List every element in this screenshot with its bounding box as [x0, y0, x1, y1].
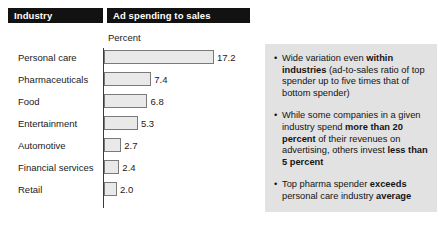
callout-text: Top pharma spender [282, 179, 370, 189]
chart-page: Industry Ad spending to sales Percent Pe… [0, 0, 437, 232]
column-header-industry: Industry [8, 8, 103, 23]
bar-category-label: Pharmaceuticals [18, 74, 88, 85]
bar-row: Pharmaceuticals7.4 [0, 70, 258, 92]
bar-category-label: Food [18, 96, 40, 107]
bar-row: Financial services2.4 [0, 158, 258, 180]
bar-value-label: 6.8 [150, 96, 163, 107]
column-header-ad-spending-label: Ad spending to sales [113, 10, 211, 21]
column-header-industry-label: Industry [14, 10, 52, 21]
axis-caption-percent: Percent [108, 32, 141, 43]
bar [104, 94, 147, 108]
bar-value-label: 2.4 [122, 162, 135, 173]
callout-bullet: While some companies in a given industry… [274, 110, 428, 168]
bar-category-label: Retail [18, 184, 42, 195]
callout-panel: Wide variation even within industries (a… [265, 44, 437, 212]
bar-value-label: 2.7 [124, 140, 137, 151]
bar-category-label: Entertainment [18, 118, 77, 129]
bar-row: Retail2.0 [0, 180, 258, 202]
bar-value-label: 7.4 [154, 74, 167, 85]
callout-text: Wide variation even [282, 53, 366, 63]
bar-value-label: 2.0 [120, 184, 133, 195]
bar-value-label: 17.2 [217, 52, 236, 63]
callout-bullet: Top pharma spender exceeds personal care… [274, 179, 428, 202]
bar-row: Food6.8 [0, 92, 258, 114]
callout-text-emphasis: average [376, 191, 411, 201]
bar-row: Automotive2.7 [0, 136, 258, 158]
bar [104, 160, 119, 174]
bar-category-label: Automotive [18, 140, 66, 151]
callout-text-emphasis: exceeds [370, 179, 407, 189]
bar [104, 116, 138, 130]
bar [104, 138, 121, 152]
bar-category-label: Personal care [18, 52, 77, 63]
bar [104, 50, 214, 64]
callout-bullet: Wide variation even within industries (a… [274, 53, 428, 99]
bar [104, 182, 117, 196]
bar [104, 72, 151, 86]
callout-text: personal care industry [282, 191, 376, 201]
column-header-ad-spending: Ad spending to sales [107, 8, 250, 23]
bar-category-label: Financial services [18, 162, 94, 173]
bar-row: Personal care17.2 [0, 48, 258, 70]
bar-chart: Personal care17.2Pharmaceuticals7.4Food6… [0, 48, 258, 218]
bar-value-label: 5.3 [141, 118, 154, 129]
bar-row: Entertainment5.3 [0, 114, 258, 136]
